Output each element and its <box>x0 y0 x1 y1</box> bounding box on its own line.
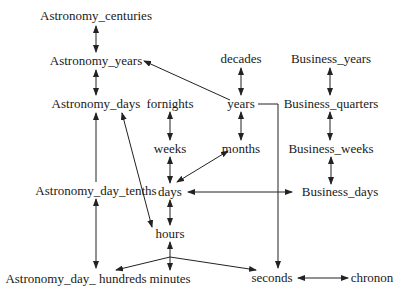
node-astronomy-centuries: Astronomy_centuries <box>40 8 152 23</box>
node-months: months <box>222 141 260 156</box>
node-hours: hours <box>156 226 185 241</box>
node-astronomy-day-tenths: Astronomy_day_tenths <box>35 183 156 198</box>
edge-years-astronomy-years <box>144 61 230 100</box>
node-astronomy-days: Astronomy_days <box>52 96 141 111</box>
node-fornights: fornights <box>147 96 194 111</box>
edge-minutes-hundreds <box>116 257 170 270</box>
edge-astronomy-days-hours <box>122 113 152 227</box>
nodes: Astronomy_centuries Astronomy_years Astr… <box>5 8 393 286</box>
node-weeks: weeks <box>154 141 187 156</box>
node-seconds: seconds <box>251 270 292 285</box>
node-business-weeks: Business_weeks <box>288 141 373 156</box>
node-minutes: minutes <box>149 271 190 286</box>
node-years: years <box>227 96 254 111</box>
node-business-years: Business_years <box>291 51 371 66</box>
granularity-diagram: Astronomy_centuries Astronomy_years Astr… <box>0 0 401 296</box>
node-business-days: Business_days <box>302 184 379 199</box>
node-astronomy-day-hundreds: Astronomy_day_ hundreds <box>5 271 146 286</box>
edge-minutes-seconds <box>170 257 256 270</box>
edge-years-seconds <box>258 104 278 268</box>
node-chronon: chronon <box>351 270 394 285</box>
node-astronomy-years: Astronomy_years <box>50 53 142 68</box>
node-decades: decades <box>220 51 261 66</box>
node-business-quarters: Business_quarters <box>284 96 379 111</box>
node-days: days <box>158 184 182 199</box>
